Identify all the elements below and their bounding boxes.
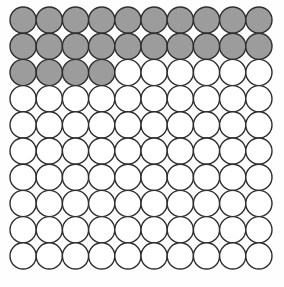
circle-unshaded xyxy=(167,190,193,216)
circle-unshaded xyxy=(115,86,141,112)
circle-unshaded xyxy=(246,59,272,85)
circle-row xyxy=(10,190,272,216)
circle-unshaded xyxy=(193,243,219,269)
circle-unshaded xyxy=(10,86,36,112)
circle-unshaded xyxy=(141,190,167,216)
circle-unshaded xyxy=(246,86,272,112)
circle-shaded xyxy=(246,7,272,33)
circle-unshaded xyxy=(141,164,167,190)
circle-unshaded xyxy=(220,217,246,243)
circle-unshaded xyxy=(167,86,193,112)
circle-unshaded xyxy=(141,59,167,85)
circle-unshaded xyxy=(246,112,272,138)
circle-unshaded xyxy=(220,59,246,85)
circle-unshaded xyxy=(167,217,193,243)
circle-unshaded xyxy=(193,86,219,112)
circle-unshaded xyxy=(36,217,62,243)
circle-row xyxy=(10,86,272,112)
circle-unshaded xyxy=(141,112,167,138)
circle-unshaded xyxy=(167,112,193,138)
circle-unshaded xyxy=(89,112,115,138)
circle-row xyxy=(10,138,272,164)
circle-shaded xyxy=(36,59,62,85)
circle-unshaded xyxy=(193,190,219,216)
circle-unshaded xyxy=(10,138,36,164)
circle-row xyxy=(10,243,272,269)
circle-unshaded xyxy=(141,243,167,269)
circle-grid xyxy=(0,0,284,287)
circle-row xyxy=(10,217,272,243)
circle-unshaded xyxy=(62,243,88,269)
circle-shaded xyxy=(36,33,62,59)
circle-unshaded xyxy=(246,138,272,164)
circle-unshaded xyxy=(115,59,141,85)
circle-unshaded xyxy=(193,59,219,85)
circle-shaded xyxy=(89,59,115,85)
circle-row xyxy=(10,112,272,138)
circle-shaded xyxy=(89,33,115,59)
circle-unshaded xyxy=(36,112,62,138)
circle-unshaded xyxy=(89,86,115,112)
circle-unshaded xyxy=(141,138,167,164)
circle-unshaded xyxy=(167,59,193,85)
circle-unshaded xyxy=(89,164,115,190)
circle-unshaded xyxy=(167,164,193,190)
circle-unshaded xyxy=(89,190,115,216)
circle-shaded xyxy=(10,33,36,59)
circle-shaded xyxy=(36,7,62,33)
circle-shaded xyxy=(193,7,219,33)
circle-unshaded xyxy=(115,164,141,190)
circle-unshaded xyxy=(220,190,246,216)
circle-unshaded xyxy=(167,138,193,164)
circle-unshaded xyxy=(62,112,88,138)
circle-unshaded xyxy=(115,190,141,216)
circle-shaded xyxy=(220,7,246,33)
circle-shaded xyxy=(62,59,88,85)
circle-unshaded xyxy=(141,86,167,112)
circle-unshaded xyxy=(36,138,62,164)
circle-shaded xyxy=(62,33,88,59)
circle-shaded xyxy=(10,59,36,85)
figure-root xyxy=(0,0,284,287)
circle-unshaded xyxy=(36,190,62,216)
circle-shaded xyxy=(89,7,115,33)
circle-unshaded xyxy=(115,112,141,138)
circle-shaded xyxy=(115,33,141,59)
circle-unshaded xyxy=(220,138,246,164)
circle-unshaded xyxy=(10,243,36,269)
circle-shaded xyxy=(141,33,167,59)
circle-unshaded xyxy=(89,243,115,269)
circle-unshaded xyxy=(115,138,141,164)
circle-unshaded xyxy=(141,217,167,243)
circle-unshaded xyxy=(193,217,219,243)
circle-row xyxy=(10,7,272,33)
circle-unshaded xyxy=(62,164,88,190)
circle-unshaded xyxy=(220,164,246,190)
circle-shaded xyxy=(141,7,167,33)
circle-unshaded xyxy=(193,138,219,164)
circle-unshaded xyxy=(10,190,36,216)
circle-shaded xyxy=(220,33,246,59)
circle-unshaded xyxy=(246,190,272,216)
circle-unshaded xyxy=(246,164,272,190)
circle-unshaded xyxy=(62,138,88,164)
circle-unshaded xyxy=(220,86,246,112)
circle-shaded xyxy=(167,33,193,59)
circle-unshaded xyxy=(193,112,219,138)
circle-shaded xyxy=(167,7,193,33)
circle-row xyxy=(10,33,272,59)
circle-shaded xyxy=(193,33,219,59)
circle-row xyxy=(10,59,272,85)
circle-shaded xyxy=(115,7,141,33)
circle-unshaded xyxy=(246,243,272,269)
circle-unshaded xyxy=(115,217,141,243)
circle-unshaded xyxy=(89,138,115,164)
circle-unshaded xyxy=(10,164,36,190)
circle-unshaded xyxy=(36,164,62,190)
circle-unshaded xyxy=(220,112,246,138)
circle-unshaded xyxy=(62,190,88,216)
circle-unshaded xyxy=(167,243,193,269)
circle-unshaded xyxy=(10,217,36,243)
circle-unshaded xyxy=(10,112,36,138)
circle-row xyxy=(10,164,272,190)
